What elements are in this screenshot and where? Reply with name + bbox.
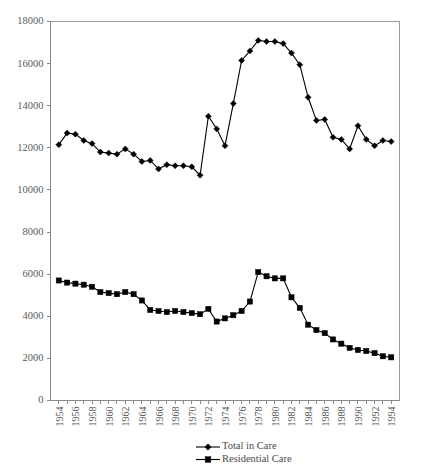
data-point-marker [372, 351, 377, 356]
data-point-marker [389, 355, 394, 360]
y-tick-label: 12000 [17, 142, 43, 153]
x-tick-label: 1962 [120, 407, 131, 427]
x-tick-label: 1966 [154, 407, 165, 427]
plot-frame [51, 22, 400, 401]
data-point-marker [164, 309, 169, 314]
data-point-marker [214, 319, 219, 324]
data-point-marker [272, 39, 278, 45]
data-point-marker [106, 291, 111, 296]
x-tick-label: 1968 [170, 407, 181, 427]
data-point-marker [231, 313, 236, 318]
data-point-marker [123, 289, 128, 294]
data-point-marker [239, 308, 244, 313]
data-point-marker [106, 150, 112, 156]
data-point-marker [222, 316, 227, 321]
legend-item-2: Residential Care [196, 453, 292, 464]
x-tick-label: 1992 [370, 407, 381, 427]
data-point-marker [388, 139, 394, 145]
data-point-marker [322, 331, 327, 336]
data-point-marker [264, 39, 270, 45]
data-point-marker [330, 134, 336, 140]
data-point-marker [322, 116, 328, 122]
y-tick-label: 18000 [17, 15, 43, 26]
data-point-marker [281, 276, 286, 281]
x-tick-label: 1960 [104, 407, 115, 427]
data-point-marker [56, 278, 61, 283]
x-tick-label: 1980 [270, 407, 281, 427]
data-point-marker [380, 137, 386, 143]
legend-item-1: Total in Care [196, 440, 277, 451]
x-tick-label: 1978 [253, 407, 264, 427]
data-point-marker [264, 274, 269, 279]
x-tick-label: 1982 [286, 407, 297, 427]
x-tick-label: 1990 [353, 407, 364, 427]
legend-label: Total in Care [222, 440, 277, 451]
x-axis: 1954195619581960196219641966196819701972… [51, 401, 400, 427]
data-point-marker [297, 305, 302, 310]
x-tick-label: 1974 [220, 407, 231, 427]
x-tick-label: 1964 [137, 407, 148, 427]
data-point-marker [81, 282, 86, 287]
line-chart: 0200040006000800010000120001400016000180… [0, 0, 423, 472]
data-point-marker [89, 284, 94, 289]
x-tick-label: 1970 [187, 407, 198, 427]
series-1 [56, 37, 394, 178]
data-point-marker [65, 280, 70, 285]
data-point-marker [222, 143, 228, 149]
x-tick-label: 1994 [386, 407, 397, 427]
y-tick-label: 10000 [17, 184, 43, 195]
data-point-marker [305, 322, 310, 327]
data-point-marker [314, 327, 319, 332]
y-tick-label: 16000 [17, 58, 43, 69]
y-tick-label: 8000 [23, 226, 44, 237]
data-point-marker [272, 276, 277, 281]
x-tick-label: 1956 [70, 407, 81, 427]
data-point-marker [73, 281, 78, 286]
data-point-marker [330, 337, 335, 342]
data-point-marker [139, 298, 144, 303]
data-point-marker [214, 126, 220, 132]
chart-container: 0200040006000800010000120001400016000180… [0, 0, 423, 472]
data-point-marker [339, 341, 344, 346]
data-point-marker [131, 292, 136, 297]
data-point-marker [180, 163, 186, 169]
data-point-marker [305, 94, 311, 100]
data-point-marker [347, 345, 352, 350]
y-tick-label: 0 [38, 394, 43, 405]
data-point-marker [114, 151, 120, 157]
legend-square-icon [205, 457, 211, 463]
y-tick-label: 14000 [17, 100, 43, 111]
data-point-marker [364, 348, 369, 353]
y-axis: 0200040006000800010000120001400016000180… [17, 15, 50, 405]
x-tick-label: 1954 [54, 407, 65, 427]
data-point-marker [256, 269, 261, 274]
y-tick-label: 4000 [23, 310, 44, 321]
data-point-marker [230, 101, 236, 107]
data-point-marker [148, 307, 153, 312]
data-point-marker [173, 308, 178, 313]
data-series-layer [56, 37, 394, 359]
data-point-marker [289, 295, 294, 300]
legend-diamond-icon [205, 444, 211, 450]
x-tick-label: 1958 [87, 407, 98, 427]
data-point-marker [122, 146, 128, 152]
data-point-marker [114, 292, 119, 297]
y-tick-label: 6000 [23, 268, 44, 279]
data-point-marker [164, 162, 170, 168]
x-tick-label: 1972 [203, 407, 214, 427]
data-point-marker [380, 354, 385, 359]
series-2 [56, 269, 394, 359]
data-point-marker [355, 347, 360, 352]
chart-legend: Total in CareResidential Care [196, 440, 292, 464]
legend-label: Residential Care [222, 453, 292, 464]
x-tick-label: 1984 [303, 407, 314, 427]
x-tick-label: 1988 [336, 407, 347, 427]
y-tick-label: 2000 [23, 352, 44, 363]
x-tick-label: 1976 [237, 407, 248, 427]
data-point-marker [156, 308, 161, 313]
x-tick-label: 1986 [320, 407, 331, 427]
data-point-marker [355, 123, 361, 129]
data-point-marker [181, 309, 186, 314]
data-point-marker [206, 306, 211, 311]
data-point-marker [205, 113, 211, 119]
